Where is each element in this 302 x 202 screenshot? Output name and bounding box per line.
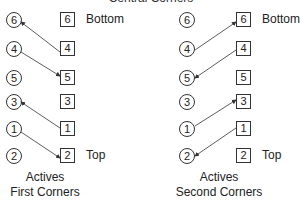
square-node: 6 (236, 12, 251, 27)
square-node: 1 (60, 121, 75, 136)
top-label: Top (86, 148, 105, 162)
square-node: 4 (236, 41, 251, 56)
caption-line1: Actives (164, 170, 274, 185)
caption-line2: First Corners (0, 185, 100, 200)
square-node: 5 (236, 70, 251, 85)
caption-line1: Actives (0, 170, 100, 185)
square-node: 3 (60, 94, 75, 109)
circle-node: 5 (179, 70, 195, 86)
bottom-label: Bottom (262, 12, 300, 26)
caption: Actives Second Corners (164, 170, 274, 200)
circle-node: 3 (179, 94, 195, 110)
square-node: 6 (60, 12, 75, 27)
circle-node: 4 (179, 41, 195, 57)
circle-node: 2 (179, 148, 195, 164)
square-node: 3 (236, 94, 251, 109)
square-node: 5 (60, 70, 75, 85)
circle-node: 6 (6, 12, 22, 28)
square-node: 1 (236, 121, 251, 136)
circle-node: 2 (6, 148, 22, 164)
circle-node: 1 (179, 121, 195, 137)
bottom-label: Bottom (86, 12, 124, 26)
caption: Actives First Corners (0, 170, 100, 200)
caption-line2: Second Corners (164, 185, 274, 200)
square-node: 2 (236, 148, 251, 163)
circle-node: 4 (6, 41, 22, 57)
circle-node: 6 (179, 12, 195, 28)
top-label: Top (262, 148, 281, 162)
circle-node: 5 (6, 70, 22, 86)
square-node: 2 (60, 148, 75, 163)
circle-node: 1 (6, 121, 22, 137)
circle-node: 3 (6, 94, 22, 110)
square-node: 4 (60, 41, 75, 56)
